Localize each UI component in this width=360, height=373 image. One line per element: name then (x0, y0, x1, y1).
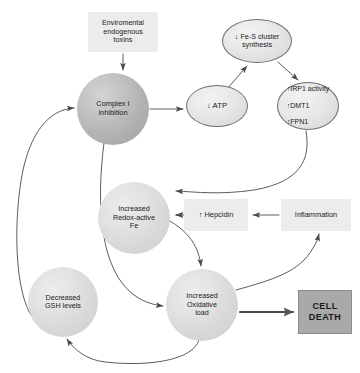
node-fe-s-cluster-synthesis-label: ↓ Fe-S cluster synthesis (235, 33, 279, 50)
node-decreased-gsh-levels: Decreased GSH levels (28, 267, 98, 337)
node-hepcidin: ↑ Hepcidin (184, 199, 248, 231)
node-complex-i-inhibition-label: Complex I inhibition (96, 100, 129, 117)
pathway-diagram: Enviromental endogenous toxins Complex I… (0, 0, 360, 373)
node-irp1-dmt1-fpn1-label: ↑IRP1 activity ↑DMT1 ↑FPN1 (287, 77, 329, 135)
edge-atp-to-fe-s (227, 66, 247, 89)
node-fe-s-cluster-synthesis: ↓ Fe-S cluster synthesis (222, 19, 292, 63)
node-cell-death: CELL DEATH (298, 290, 352, 334)
node-cell-death-label: CELL DEATH (309, 301, 341, 322)
node-hepcidin-label: ↑ Hepcidin (199, 211, 234, 220)
edge-oxidative-load-to-gsh (67, 339, 199, 364)
node-inflammation-label: Inflammation (295, 211, 337, 220)
node-inflammation: Inflammation (281, 199, 351, 231)
node-atp-label: ↓ ATP (207, 101, 227, 110)
edge-irp1-to-redox-fe (176, 131, 307, 193)
node-environmental-toxins: Enviromental endogenous toxins (88, 12, 158, 52)
node-fpn1-line: ↑FPN1 (287, 118, 329, 126)
edge-oxidative-load-to-inflammation (236, 234, 319, 290)
node-increased-redox-active-fe: Increased Redox-active Fe (98, 182, 170, 254)
node-increased-oxidative-load-label: Increased Oxidative load (186, 292, 218, 317)
node-environmental-toxins-label: Enviromental endogenous toxins (102, 19, 144, 44)
node-increased-redox-active-fe-label: Increased Redox-active Fe (113, 205, 155, 230)
node-decreased-gsh-levels-label: Decreased GSH levels (45, 294, 81, 311)
node-irp1-activity-line: ↑IRP1 activity (287, 85, 329, 93)
node-atp: ↓ ATP (186, 85, 248, 127)
node-irp1-dmt1-fpn1: ↑IRP1 activity ↑DMT1 ↑FPN1 (277, 82, 339, 130)
node-dmt1-line: ↑DMT1 (287, 102, 329, 110)
node-increased-oxidative-load: Increased Oxidative load (166, 269, 238, 341)
node-complex-i-inhibition: Complex I inhibition (77, 73, 149, 145)
